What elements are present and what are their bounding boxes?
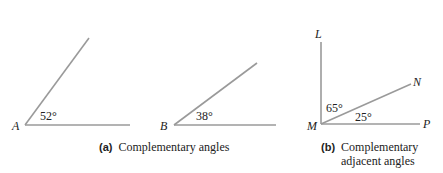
ray-b-inclined	[174, 63, 257, 125]
vertex-label-m: M	[306, 119, 318, 133]
angle-measure-a: 52°	[40, 109, 57, 123]
vertex-label-a: A	[11, 119, 20, 133]
point-label-l: L	[314, 27, 322, 41]
caption-a-text: Complementary angles	[118, 140, 229, 154]
angle-measure-lmn: 65°	[326, 101, 343, 115]
point-label-p: P	[422, 117, 431, 131]
caption-b-line1: Complementary	[341, 140, 418, 154]
caption-a: (a) Complementary angles	[99, 140, 229, 154]
caption-b-tag: (b)	[321, 141, 335, 153]
caption-a-tag: (a)	[99, 141, 112, 153]
ray-a-inclined	[25, 38, 89, 125]
angle-measure-b: 38°	[196, 109, 213, 123]
vertex-label-b: B	[160, 119, 168, 133]
caption-b-line2: adjacent angles	[321, 154, 415, 168]
caption-b: (b) Complementary adjacent angles	[321, 140, 418, 168]
point-label-n: N	[412, 75, 422, 89]
angle-measure-nmp: 25°	[355, 110, 372, 124]
